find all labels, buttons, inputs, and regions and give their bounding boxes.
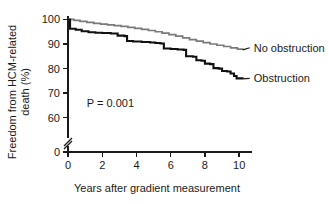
curve-obstruction (68, 19, 243, 78)
x-tick-label: 6 (168, 159, 174, 171)
km-survival-chart: Freedom from HCM-related death (%) 60708… (0, 0, 329, 204)
y-tick-label-zero: 0 (54, 146, 60, 158)
series-leader-line (243, 78, 250, 79)
x-axis-title: Years after gradient measurement (74, 182, 240, 194)
y-tick-label: 90 (48, 38, 60, 50)
series-label-no-obstruction: No obstruction (254, 42, 325, 54)
y-axis-title-line1: Freedom from HCM-related (6, 25, 18, 159)
annotations: P = 0.001 (87, 97, 134, 109)
y-tick-label: 60 (48, 112, 60, 124)
y-axis-title-line2: death (%) (19, 68, 31, 116)
annotation-p-value: P = 0.001 (87, 97, 134, 109)
kaplan-meier-figure: Freedom from HCM-related death (%) 60708… (0, 0, 329, 204)
x-tick-label: 2 (99, 159, 105, 171)
series-labels: No obstructionObstruction (243, 42, 325, 85)
x-tick-label: 0 (65, 159, 71, 171)
series-label-obstruction: Obstruction (254, 72, 310, 84)
y-tick-label: 70 (48, 87, 60, 99)
x-tick-label: 10 (233, 159, 245, 171)
curve-no-obstruction (68, 19, 243, 49)
x-tick-label: 4 (133, 159, 139, 171)
x-tick-label: 8 (202, 159, 208, 171)
axes: 6070809010000246810 (42, 13, 252, 171)
series-leader-line (243, 48, 250, 50)
y-tick-label: 100 (42, 13, 60, 25)
y-tick-label: 80 (48, 63, 60, 75)
series-curves (68, 19, 243, 78)
y-axis-title: Freedom from HCM-related death (%) (6, 25, 31, 159)
